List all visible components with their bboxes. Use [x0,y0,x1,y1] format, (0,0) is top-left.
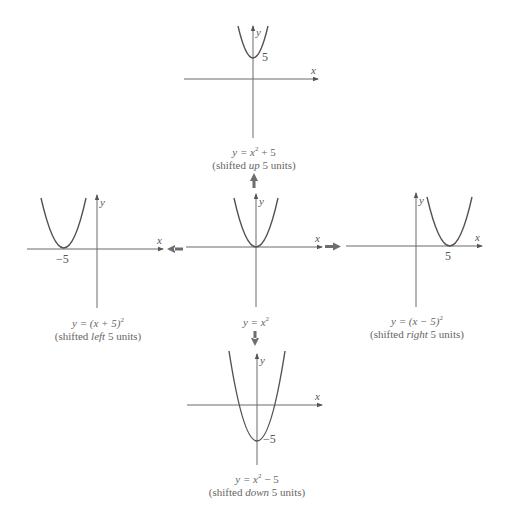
equation: y = (x + 5)2 [55,314,141,330]
equation: y = x2 [243,313,269,329]
shift-description: (shifted down 5 units) [209,486,305,499]
equation: y = x2 − 5 [209,470,305,486]
vertex-label: −5 [56,252,69,266]
equation: y = x2 + 5 [212,143,295,159]
caption-center: y = x2 [243,313,269,329]
parabola-curve [41,198,86,248]
arrow-left-icon [167,245,183,253]
shift-description: (shifted left 5 units) [55,330,141,343]
vertex-label: 5 [445,249,451,263]
caption-left: y = (x + 5)2 (shifted left 5 units) [55,314,141,343]
graph-right: x y 5 [346,193,482,307]
parabola-curve [427,197,472,246]
vertex-label: 5 [262,50,268,64]
caption-right: y = (x − 5)2 (shifted right 5 units) [370,312,464,341]
caption-up: y = x2 + 5 (shifted up 5 units) [212,143,295,172]
y-axis-label: y [255,26,261,38]
arrow-up-icon [250,173,258,188]
x-axis-label: x [310,64,316,76]
graph-up: x y 5 [184,26,318,138]
graph-center: x y [186,194,322,307]
arrow-down-icon [251,331,259,346]
arrow-right-icon [325,243,341,251]
x-axis-label: x [314,232,320,244]
shift-diagram: x y 5 x y x y −5 x y 5 x y −5 [0,0,509,521]
shift-description: (shifted up 5 units) [212,159,295,172]
vertex-label: −5 [263,432,276,446]
shift-description: (shifted right 5 units) [370,328,464,341]
caption-down: y = x2 − 5 (shifted down 5 units) [209,470,305,499]
y-axis-label: y [99,196,105,208]
y-axis-label: y [258,195,264,207]
graph-down: x y −5 [187,351,322,465]
y-axis-label: y [418,194,424,206]
x-axis-label: x [474,231,480,243]
y-axis-label: y [259,354,265,366]
graph-left: x y −5 [27,195,163,308]
equation: y = (x − 5)2 [370,312,464,328]
x-axis-label: x [314,390,320,402]
x-axis-label: x [156,234,162,246]
